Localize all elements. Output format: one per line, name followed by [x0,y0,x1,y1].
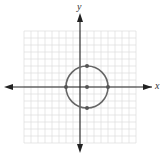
data-point [85,106,89,110]
data-point [64,85,68,89]
x-axis-label: x [155,80,159,91]
data-point [106,85,110,89]
coordinate-plane [0,0,164,157]
x-axis-right-arrow-icon [143,84,152,90]
y-axis-up-arrow-icon [77,13,83,22]
data-point [85,64,89,68]
y-axis-down-arrow-icon [77,144,83,153]
data-point [85,85,89,89]
y-axis-label: y [77,1,81,12]
x-axis-left-arrow-icon [4,84,13,90]
